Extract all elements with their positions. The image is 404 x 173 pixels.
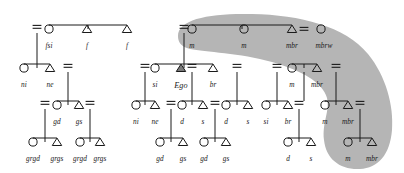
person-label-f: f — [86, 42, 88, 49]
male-symbol — [82, 25, 91, 32]
person-label-fsi: fsi — [45, 42, 52, 49]
person-label-ne: ne — [151, 118, 158, 125]
person-label-grgs: grgs — [93, 155, 106, 162]
person-label-d: d — [180, 118, 184, 125]
female-symbol — [284, 138, 292, 146]
male-symbol — [122, 25, 131, 32]
person-label-gd: gd — [200, 155, 208, 162]
person-label-s: s — [310, 155, 313, 162]
person-label-gs: gs — [180, 155, 187, 162]
person-label-mbr: mbr — [342, 118, 354, 125]
person-label-gd: gd — [156, 155, 164, 162]
person-label-s: s — [247, 118, 250, 125]
person-label-grgs: grgs — [50, 155, 63, 162]
female-symbol — [222, 101, 230, 109]
person-label-d: d — [224, 118, 228, 125]
female-symbol — [53, 101, 61, 109]
person-label-m: m — [322, 118, 327, 125]
person-label-grgd: grgd — [73, 155, 87, 162]
male-symbol — [74, 101, 83, 108]
female-symbol — [20, 64, 28, 72]
diagram-canvas — [0, 0, 404, 173]
person-label-mbr: mbr — [286, 42, 298, 49]
female-symbol — [178, 101, 186, 109]
male-symbol — [243, 101, 252, 108]
person-label-ego: Ego — [174, 82, 188, 90]
female-symbol — [132, 101, 140, 109]
female-symbol — [45, 25, 53, 33]
person-label-si: si — [152, 81, 157, 88]
male-symbol — [52, 138, 61, 145]
male-symbol — [45, 64, 54, 71]
person-label-m: m — [345, 155, 350, 162]
female-symbol — [29, 138, 37, 146]
male-symbol — [208, 64, 217, 71]
male-symbol — [221, 138, 230, 145]
person-label-grgd: grgd — [26, 155, 40, 162]
person-label-ni: ni — [133, 118, 139, 125]
person-label-m: m — [289, 81, 294, 88]
person-label-mbr: mbr — [366, 155, 378, 162]
female-symbol — [76, 138, 84, 146]
person-label-gs: gs — [223, 155, 230, 162]
person-label-br: br — [285, 118, 292, 125]
male-symbol — [178, 138, 187, 145]
person-label-mbrw: mbrw — [315, 42, 332, 49]
person-label-ne: ne — [46, 81, 53, 88]
person-label-gs: gs — [76, 118, 83, 125]
person-label-ni: ni — [21, 81, 27, 88]
person-label-f: f — [126, 42, 128, 49]
male-symbol — [283, 101, 292, 108]
person-label-d: d — [286, 155, 290, 162]
male-symbol — [95, 138, 104, 145]
person-label-br: br — [210, 81, 217, 88]
male-symbol — [306, 138, 315, 145]
female-symbol — [156, 138, 164, 146]
person-label-m: m — [189, 42, 194, 49]
person-label-s: s — [202, 118, 205, 125]
male-symbol — [150, 101, 159, 108]
person-label-mbr: mbr — [311, 81, 323, 88]
male-symbol — [198, 101, 207, 108]
person-label-si: si — [263, 118, 268, 125]
person-label-gd: gd — [53, 118, 61, 125]
female-symbol — [262, 101, 270, 109]
kinship-diagram: fsiffninegdgsgrgdgrgsgrgdgrgsmmmbrmbrwsi… — [0, 0, 404, 173]
matrilineal-shading-band — [178, 14, 392, 169]
person-label-m: m — [241, 42, 246, 49]
female-symbol — [151, 64, 159, 72]
female-symbol — [200, 138, 208, 146]
